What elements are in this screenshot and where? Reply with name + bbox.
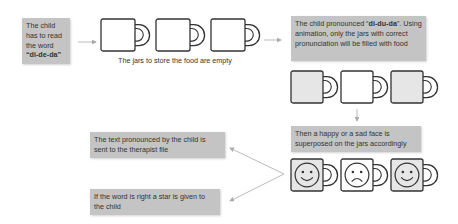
jar-body (341, 159, 373, 191)
arrow-to-therapist (230, 148, 284, 174)
jar-handle (373, 165, 388, 186)
jar-body (391, 71, 423, 103)
jar-handle (135, 25, 150, 46)
jar-body (341, 71, 373, 103)
start-text: The child has to read the word (26, 21, 62, 50)
jar-handle (423, 165, 438, 186)
star-text: If the word is right a star is given to … (94, 192, 205, 211)
jar-body (156, 19, 190, 51)
filled-jar (390, 70, 441, 105)
jar-handle (423, 77, 438, 98)
empty-jar (340, 70, 391, 105)
face-jar (290, 158, 341, 193)
jar-handle (190, 25, 205, 46)
target-word: “di-de-da” (26, 50, 61, 59)
arrow-to-star (230, 174, 284, 201)
empty-jar (210, 18, 263, 53)
start-box: The child has to read the word “di-de-da… (22, 18, 70, 64)
jar-body (391, 159, 423, 191)
jar-handle (373, 77, 388, 98)
face-jar (390, 158, 441, 193)
jar-body (101, 19, 135, 51)
empty-jar (100, 18, 153, 53)
faces-box: Then a happy or a sad face is superposed… (291, 126, 421, 152)
jar-handle (323, 77, 338, 98)
empty-jars-caption: The jars to store the food are empty (118, 56, 232, 65)
pronounced-text-pre: The child pronounced “ (295, 19, 369, 28)
empty-jar (155, 18, 208, 53)
jar-body (211, 19, 245, 51)
jar-body (291, 71, 323, 103)
jar-body (291, 159, 323, 191)
jar-handle (323, 165, 338, 186)
pronounced-box: The child pronounced “di-du-da”. Using a… (291, 16, 426, 61)
face-jar (340, 158, 391, 193)
filled-jar (290, 70, 341, 105)
faces-text: Then a happy or a sad face is superposed… (295, 129, 406, 148)
star-box: If the word is right a star is given to … (90, 189, 220, 215)
pronounced-word: di-du-da (369, 19, 397, 28)
therapist-text: The text pronounced by the child is sent… (94, 135, 205, 154)
therapist-box: The text pronounced by the child is sent… (90, 132, 225, 158)
jar-handle (245, 25, 260, 46)
